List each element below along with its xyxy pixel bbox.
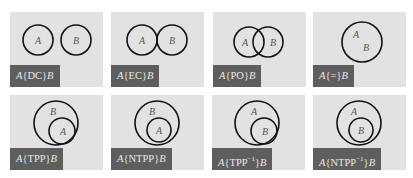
- label-b: B: [47, 70, 53, 81]
- panel-dc: A B A{DC}B: [10, 12, 103, 87]
- label-relation: {=}: [325, 70, 341, 81]
- relation-label-ntpp-inverse: A{NTPP−1}B: [313, 148, 381, 170]
- region-a-label: A: [250, 106, 258, 117]
- panel-tpp-inverse: A B A{TPP−1}B: [212, 95, 305, 170]
- region-b-label: B: [363, 42, 369, 53]
- region-b-label: B: [50, 106, 56, 117]
- panel-ntpp-inverse: A B A{NTPP−1}B: [313, 95, 406, 170]
- relation-label-ntpp: A{NTPP}B: [111, 148, 172, 170]
- relation-label-dc: A{DC}B: [10, 65, 60, 87]
- label-relation: {DC}: [22, 70, 47, 81]
- label-relation: {TPP}: [22, 153, 50, 164]
- label-b: B: [260, 157, 266, 168]
- relation-label-ec: A{EC}B: [111, 65, 159, 87]
- region-a-label: A: [241, 37, 249, 48]
- region-b-label: B: [149, 106, 155, 117]
- label-relation: {NTPP: [325, 157, 356, 168]
- region-b-label: B: [270, 37, 276, 48]
- panel-ec: A B A{EC}B: [111, 12, 204, 87]
- label-relation: {EC}: [123, 70, 147, 81]
- region-a-label: A: [155, 125, 163, 136]
- panel-ntpp: B A A{NTPP}B: [111, 95, 204, 170]
- region-a-label: A: [59, 126, 67, 137]
- region-a-label: A: [138, 35, 146, 46]
- region-b-label: B: [262, 126, 268, 137]
- label-b: B: [159, 153, 165, 164]
- region-a-label: A: [352, 29, 360, 40]
- region-b-circle: [253, 27, 283, 57]
- panel-tpp: B A A{TPP}B: [10, 95, 103, 170]
- label-relation: {TPP: [224, 157, 247, 168]
- label-b: B: [341, 70, 347, 81]
- label-b: B: [51, 153, 57, 164]
- region-ab-circle: [342, 22, 382, 62]
- inverse-superscript: −1: [248, 155, 255, 163]
- panel-eq: A B A{=}B: [313, 12, 406, 87]
- relation-label-po: A{PO}B: [213, 65, 261, 87]
- relation-label-eq: A{=}B: [313, 65, 354, 87]
- region-b-label: B: [169, 35, 175, 46]
- region-a-circle: [234, 27, 264, 57]
- label-b: B: [369, 157, 375, 168]
- region-b-label: B: [358, 125, 364, 136]
- region-a-label: A: [34, 35, 42, 46]
- label-relation: {NTPP}: [123, 153, 159, 164]
- panel-po: A B A{PO}B: [213, 12, 306, 87]
- relation-label-tpp-inverse: A{TPP−1}B: [212, 148, 272, 170]
- label-b: B: [147, 70, 153, 81]
- region-a-label: A: [350, 106, 358, 117]
- region-a-circle: [337, 101, 381, 145]
- region-b-label: B: [73, 35, 79, 46]
- label-relation: {PO}: [225, 70, 249, 81]
- relation-label-tpp: A{TPP}B: [10, 148, 63, 170]
- inverse-superscript: −1: [356, 155, 363, 163]
- label-b: B: [249, 70, 255, 81]
- region-b-circle: [135, 101, 179, 145]
